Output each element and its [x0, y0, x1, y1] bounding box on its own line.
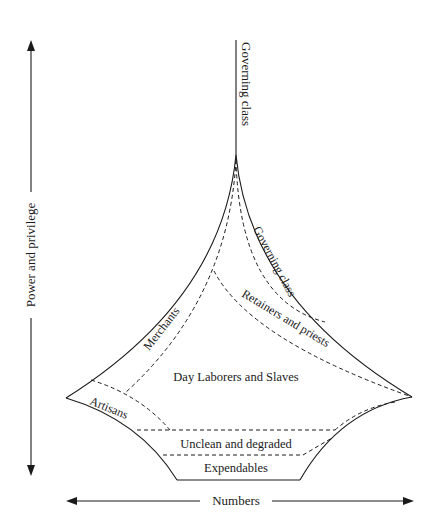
arrow-down-icon: [27, 465, 35, 476]
label-merchants: Merchants: [140, 304, 182, 353]
label-day-laborers-slaves: Day Laborers and Slaves: [173, 370, 298, 384]
outer-outline: [66, 155, 412, 480]
horizontal-axis: Numbers: [66, 493, 414, 508]
vertical-axis: Power and privilege: [23, 40, 38, 476]
arrow-up-icon: [27, 40, 35, 51]
label-governing-class-top: Governing class: [239, 42, 254, 126]
arrow-right-icon: [403, 497, 414, 505]
vertical-axis-label: Power and privilege: [23, 202, 38, 307]
label-artisans: Artisans: [88, 394, 131, 422]
internal-boundaries: [91, 160, 412, 455]
arrow-left-icon: [66, 497, 77, 505]
stratification-diagram: Power and privilege Numbers Governing cl…: [0, 0, 435, 526]
label-expendables: Expendables: [204, 461, 268, 475]
label-governing-class-band: Governing class: [250, 224, 299, 299]
horizontal-axis-label: Numbers: [212, 493, 260, 508]
label-unclean-degraded: Unclean and degraded: [180, 437, 292, 451]
